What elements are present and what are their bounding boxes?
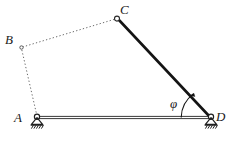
link-a-b xyxy=(22,49,38,117)
joint-circle-b xyxy=(20,46,23,49)
vertex-label-c: C xyxy=(120,2,129,17)
ground-hatching-d xyxy=(205,125,217,128)
linkage-figure: A B C D φ xyxy=(0,0,234,144)
pin-circle-a xyxy=(34,114,39,119)
ground-hatching-a xyxy=(31,125,43,128)
vertex-label-d: D xyxy=(215,109,226,124)
angle-label-phi: φ xyxy=(170,96,177,111)
vertex-label-a: A xyxy=(13,110,22,125)
pin-circle-d xyxy=(208,114,213,119)
joint-circle-c xyxy=(115,16,120,21)
link-b-c xyxy=(23,19,116,47)
linkage-diagram-canvas: A B C D φ xyxy=(0,0,234,144)
link-c-d xyxy=(119,20,211,118)
vertex-label-b: B xyxy=(5,32,13,47)
